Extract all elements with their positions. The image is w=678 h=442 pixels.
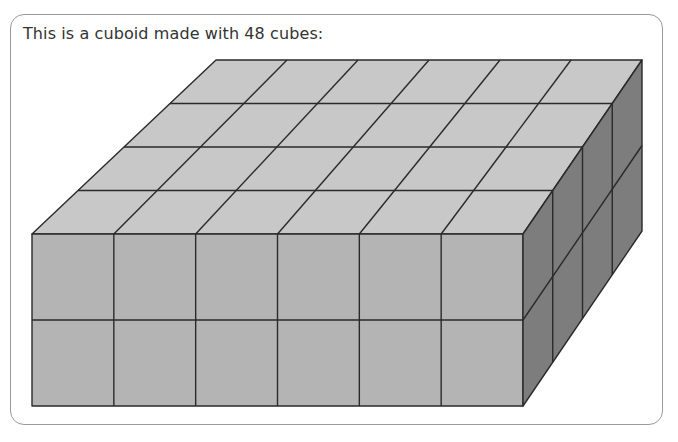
cuboid-diagram xyxy=(0,0,678,442)
cuboid-faces xyxy=(32,60,642,406)
